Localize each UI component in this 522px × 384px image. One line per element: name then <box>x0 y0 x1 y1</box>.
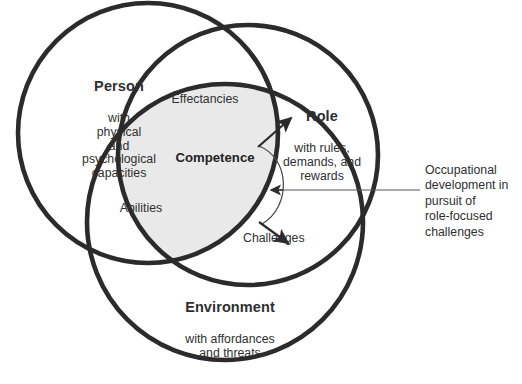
label-role-subtext: with rules, demands, and rewards <box>262 142 382 183</box>
label-competence: Competence <box>160 150 270 165</box>
label-effectancies: Effectancies <box>155 92 255 106</box>
label-role-heading: Role <box>262 108 382 124</box>
label-environment-subtext: with affordances and threats <box>140 333 320 361</box>
diagram-canvas: Person with physical and psychological c… <box>0 0 522 384</box>
label-role: Role with rules, demands, and rewards <box>262 90 382 201</box>
annotation-occupational-development: Occupational development in pursuit of r… <box>425 163 520 240</box>
label-challenges: Challenges <box>243 231 313 245</box>
label-person-subtext: with physical and psychological capaciti… <box>44 112 194 181</box>
label-abilities: Abilities <box>106 201 176 215</box>
label-person: Person with physical and psychological c… <box>44 60 194 199</box>
label-environment: Environment with affordances and threats <box>140 281 320 378</box>
label-environment-heading: Environment <box>140 299 320 315</box>
